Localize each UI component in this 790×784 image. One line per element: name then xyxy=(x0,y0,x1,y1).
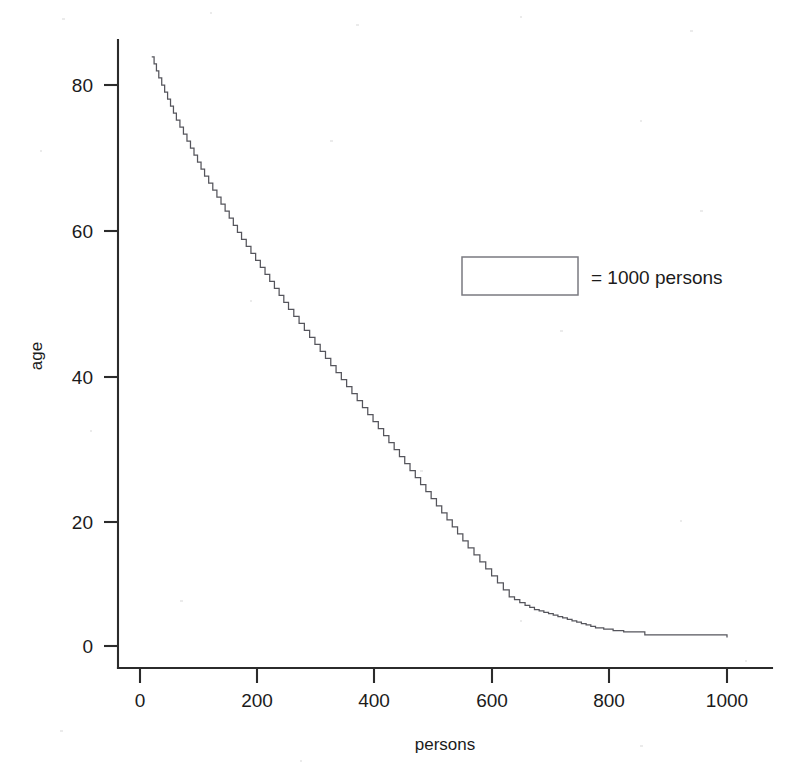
y-tick-label-0: 0 xyxy=(82,636,93,657)
y-tick-label-40: 40 xyxy=(72,367,93,388)
x-tick-label-200: 200 xyxy=(241,690,273,711)
y-tick-label-20: 20 xyxy=(72,512,93,533)
y-axis-title: age xyxy=(27,342,46,370)
x-axis-title: persons xyxy=(415,735,475,754)
legend: = 1000 persons xyxy=(462,257,723,295)
x-tick-label-800: 800 xyxy=(593,690,625,711)
x-tick-label-1000: 1000 xyxy=(706,690,748,711)
y-tick-label-60: 60 xyxy=(72,221,93,242)
chart-canvas: 80 60 40 20 0 0 200 400 600 800 1000 age… xyxy=(0,0,790,784)
y-tick-label-80: 80 xyxy=(72,75,93,96)
survivorship-step-curve xyxy=(152,57,727,638)
x-tick-label-0: 0 xyxy=(135,690,146,711)
chart-figure: 80 60 40 20 0 0 200 400 600 800 1000 age… xyxy=(0,0,790,784)
x-tick-marks xyxy=(140,668,727,683)
legend-swatch-rect xyxy=(462,257,578,295)
legend-label: = 1000 persons xyxy=(591,267,723,288)
x-tick-label-400: 400 xyxy=(358,690,390,711)
x-tick-label-600: 600 xyxy=(476,690,508,711)
y-tick-marks xyxy=(104,85,118,646)
